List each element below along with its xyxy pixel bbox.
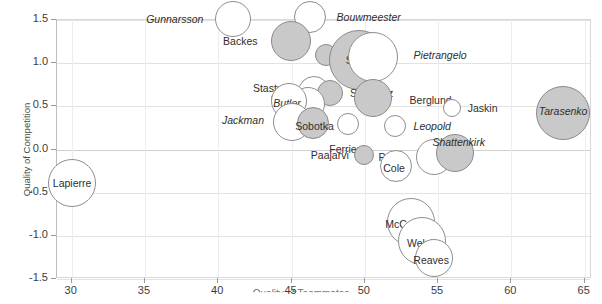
- y-tick-label: -1.5: [2, 271, 48, 283]
- x-tick-mark: [71, 278, 72, 283]
- bubble-marker[interactable]: [443, 99, 461, 117]
- y-tick-mark: [51, 149, 56, 150]
- y-tick-mark: [51, 62, 56, 63]
- x-tick-label: 50: [344, 284, 384, 296]
- point-label: Cole: [383, 162, 405, 173]
- x-tick-mark: [584, 278, 585, 283]
- y-tick-mark: [51, 235, 56, 236]
- scatter-chart: Quality of Competition Quality of Teamma…: [0, 0, 602, 304]
- y-tick-mark: [51, 19, 56, 20]
- point-label: Leopold: [414, 121, 451, 132]
- gridline-horizontal: [57, 236, 590, 237]
- x-tick-label: 60: [490, 284, 530, 296]
- x-tick-mark: [510, 278, 511, 283]
- point-label: Reaves: [413, 255, 449, 266]
- x-tick-label: 45: [271, 284, 311, 296]
- bubble-marker[interactable]: [354, 79, 392, 117]
- y-tick-label: 1.0: [2, 55, 48, 67]
- point-label: Shattenkirk: [432, 136, 485, 147]
- bubble-marker[interactable]: [384, 115, 406, 137]
- y-tick-mark: [51, 278, 56, 279]
- point-label: Jaskin: [468, 102, 498, 113]
- y-tick-mark: [51, 105, 56, 106]
- x-tick-label: 55: [417, 284, 457, 296]
- y-tick-label: 0.0: [2, 142, 48, 154]
- x-tick-mark: [144, 278, 145, 283]
- bubble-marker[interactable]: [348, 32, 398, 82]
- x-tick-mark: [291, 278, 292, 283]
- y-tick-label: -1.0: [2, 228, 48, 240]
- gridline-vertical: [72, 20, 73, 277]
- gridline-vertical: [145, 20, 146, 277]
- point-label: Bouwmeester: [337, 12, 401, 23]
- bubble-marker[interactable]: [271, 21, 311, 61]
- gridline-vertical: [585, 20, 586, 277]
- point-label: Sobotka: [295, 121, 334, 132]
- point-label: Tarasenko: [539, 106, 588, 117]
- x-tick-label: 40: [197, 284, 237, 296]
- point-label: Jackman: [222, 114, 264, 125]
- x-tick-label: 35: [124, 284, 164, 296]
- y-tick-label: -0.5: [2, 185, 48, 197]
- x-tick-mark: [364, 278, 365, 283]
- y-tick-label: 1.5: [2, 12, 48, 24]
- x-tick-label: 30: [51, 284, 91, 296]
- x-tick-label: 65: [564, 284, 602, 296]
- bubble-marker[interactable]: [337, 113, 359, 135]
- x-tick-mark: [437, 278, 438, 283]
- point-label: Paajarvi: [311, 150, 349, 161]
- point-label: Gunnarsson: [146, 14, 203, 25]
- gridline-vertical: [511, 20, 512, 277]
- point-label: Pietrangelo: [414, 49, 467, 60]
- point-label: Backes: [223, 36, 257, 47]
- gridline-vertical: [218, 20, 219, 277]
- point-label: Lapierre: [53, 178, 92, 189]
- gridline-horizontal: [57, 193, 590, 194]
- x-tick-mark: [217, 278, 218, 283]
- y-tick-label: 0.5: [2, 98, 48, 110]
